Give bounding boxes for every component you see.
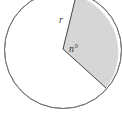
circle-diagram: r n° [0, 0, 122, 117]
angle-label: n° [69, 43, 78, 54]
radius-label: r [59, 14, 63, 25]
